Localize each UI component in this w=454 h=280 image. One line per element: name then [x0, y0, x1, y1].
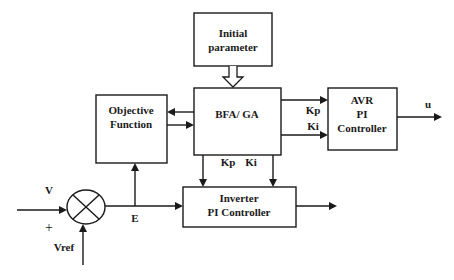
initial-parameter-block: Initial parameter — [194, 13, 272, 66]
inverter-ki-arrow — [269, 155, 277, 187]
inverter-kp-arrow — [199, 155, 207, 187]
inverter-kp-label: Kp — [221, 156, 236, 168]
vref-label: Vref — [54, 241, 75, 253]
avr-ki-arrow: Ki — [281, 120, 328, 139]
vref-input-arrow: Vref — [54, 224, 87, 265]
bfa-ga-pi-tuning-diagram: Initial parameter BFA/ GA Objective Func… — [0, 0, 454, 280]
inverter-output-arrow — [296, 202, 337, 210]
avr-output-arrow: u — [397, 98, 442, 121]
e-label: E — [131, 212, 138, 224]
objective-function-label-1: Objective — [108, 104, 153, 116]
avr-kp-arrow: Kp — [281, 96, 328, 116]
inverter-label-2: PI Controller — [207, 206, 270, 218]
avr-pi-controller-block: AVR PI Controller — [328, 88, 397, 150]
v-label: V — [45, 184, 53, 196]
avr-label-2: PI — [357, 108, 368, 120]
avr-label-1: AVR — [351, 94, 374, 106]
bfa-ga-block: BFA/ GA — [194, 88, 281, 155]
avr-label-3: Controller — [337, 122, 386, 134]
objective-function-block: Objective Function — [96, 95, 167, 163]
summing-junction-icon — [67, 190, 105, 224]
v-input-arrow: V + — [17, 184, 67, 235]
avr-kp-label: Kp — [306, 104, 321, 116]
hollow-arrow-icon — [223, 66, 243, 87]
bfa-to-objective-arrow — [167, 108, 194, 116]
initial-parameter-label-1: Initial — [219, 27, 248, 39]
error-to-objective-arrow — [131, 163, 139, 206]
plus-sign: + — [45, 220, 53, 235]
avr-ki-label: Ki — [307, 120, 319, 132]
objective-to-bfa-arrow — [167, 121, 194, 129]
output-u-label: u — [425, 98, 431, 110]
initial-parameter-label-2: parameter — [208, 41, 258, 53]
inverter-pi-controller-block: Inverter PI Controller — [183, 187, 296, 227]
inverter-ki-label: Ki — [245, 156, 257, 168]
objective-function-label-2: Function — [110, 118, 152, 130]
bfa-ga-label: BFA/ GA — [215, 108, 259, 120]
inverter-label-1: Inverter — [219, 192, 258, 204]
error-signal-arrow: E — [105, 202, 183, 224]
